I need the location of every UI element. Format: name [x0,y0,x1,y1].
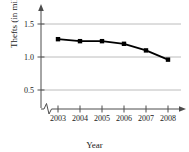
x-axis-title: Year [0,140,189,150]
data-point-2004 [78,39,82,43]
x-axis [41,104,186,115]
y-axis-title-wrap: Thefts (in millions) [0,8,14,120]
y-tick-label-0-5: 0.5 [12,86,34,95]
x-tick-label-2008: 2008 [160,114,176,123]
x-tick-label-2007: 2007 [138,114,154,123]
axis-break-zigzag [44,104,58,115]
x-tick-label-2003: 2003 [50,114,66,123]
x-tick-label-2005: 2005 [94,114,110,123]
x-tick-label-2004: 2004 [72,114,88,123]
x-tick-label-2006: 2006 [116,114,132,123]
y-axis-title: Thefts (in millions) [9,0,19,69]
data-point-2005 [100,39,104,43]
y-axis [38,4,45,108]
thefts-line-chart: 1.5 1.0 0.5 2003 2004 2005 2006 2007 200… [0,0,189,152]
data-point-2007 [144,48,148,52]
data-point-2003 [56,37,60,41]
data-point-2008 [166,57,170,61]
data-point-2006 [122,42,126,46]
